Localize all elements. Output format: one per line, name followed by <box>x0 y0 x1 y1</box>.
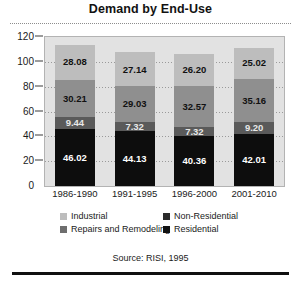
bar-segment[interactable]: 26.20 <box>174 54 214 87</box>
bar-segment[interactable]: 9.20 <box>234 122 274 133</box>
y-axis-tick-label: 100 <box>17 55 34 66</box>
y-axis-tick-mark <box>35 36 43 37</box>
bar-segment[interactable]: 28.08 <box>55 45 95 80</box>
y-axis-tick-label: 0 <box>28 180 34 191</box>
x-axis-tick-label: 2001-2010 <box>218 188 290 199</box>
legend-item[interactable]: Industrial <box>60 210 163 223</box>
chart-legend: IndustrialNon-ResidentialRepairs and Rem… <box>60 210 250 236</box>
page-title: Demand by End-Use <box>0 2 301 16</box>
chart-header: Demand by End-Use <box>0 0 301 28</box>
bar-segment[interactable]: 32.57 <box>174 86 214 126</box>
y-axis-tick-mark <box>35 135 43 136</box>
legend-item-label: Residential <box>174 225 219 234</box>
legend-swatch-icon <box>60 226 67 233</box>
bar-segment[interactable]: 42.01 <box>234 134 274 186</box>
bar-segment[interactable]: 46.02 <box>55 129 95 186</box>
y-axis-tick-mark <box>35 60 43 61</box>
bar-series-group: 46.029.4430.2128.0844.137.3229.0327.1440… <box>45 37 284 186</box>
title-divider <box>10 23 291 24</box>
bottom-divider <box>12 272 289 275</box>
y-axis-tick-mark <box>35 110 43 111</box>
y-axis-tick-label: 40 <box>23 130 34 141</box>
legend-item[interactable]: Non-Residential <box>163 210 250 223</box>
bar-segment[interactable]: 29.03 <box>115 86 155 122</box>
y-axis-tick-mark <box>35 85 43 86</box>
y-axis-tick-label: 80 <box>23 80 34 91</box>
y-axis-tick-label: 120 <box>17 31 34 42</box>
y-axis-tick-label: 20 <box>23 155 34 166</box>
y-axis-tick-mark <box>35 160 43 161</box>
legend-swatch-icon <box>60 213 67 220</box>
bar-segment[interactable]: 35.16 <box>234 79 274 123</box>
source-caption: Source: RISI, 1995 <box>0 253 301 263</box>
bar-column[interactable]: 42.019.2035.1625.02 <box>234 48 274 186</box>
x-axis: 1986-19901991-19951996-20002001-2010 <box>44 188 285 204</box>
bar-segment[interactable]: 40.36 <box>174 136 214 186</box>
legend-item-label: Repairs and Remodeling <box>71 225 170 234</box>
bar-column[interactable]: 40.367.3232.5726.20 <box>174 54 214 186</box>
y-axis: 020406080100120 <box>0 30 44 187</box>
bar-segment[interactable]: 7.32 <box>115 122 155 131</box>
legend-item[interactable]: Residential <box>163 223 250 236</box>
legend-item-label: Industrial <box>71 212 108 221</box>
bar-column[interactable]: 44.137.3229.0327.14 <box>115 52 155 186</box>
y-axis-tick-label: 60 <box>23 105 34 116</box>
legend-item-label: Non-Residential <box>174 212 238 221</box>
bar-segment[interactable]: 44.13 <box>115 131 155 186</box>
bar-segment[interactable]: 7.32 <box>174 127 214 136</box>
bar-segment[interactable]: 25.02 <box>234 48 274 79</box>
plot-area: 46.029.4430.2128.0844.137.3229.0327.1440… <box>44 36 285 187</box>
legend-item[interactable]: Repairs and Remodeling <box>60 223 163 236</box>
chart-figure: Demand by End-Use 020406080100120 46.029… <box>0 0 301 289</box>
bar-segment[interactable]: 27.14 <box>115 52 155 86</box>
legend-swatch-icon <box>163 226 170 233</box>
legend-swatch-icon <box>163 213 170 220</box>
bar-segment[interactable]: 30.21 <box>55 80 95 118</box>
plot-region: 020406080100120 46.029.4430.2128.0844.13… <box>0 30 301 188</box>
bar-column[interactable]: 46.029.4430.2128.08 <box>55 45 95 186</box>
bar-segment[interactable]: 9.44 <box>55 117 95 129</box>
